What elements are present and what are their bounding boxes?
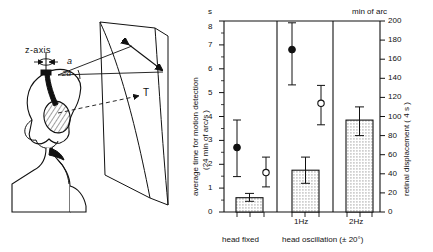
ytick-5: 5 (208, 89, 212, 97)
group-label-head-oscillation: head oscillation (± 20°) (282, 236, 363, 244)
ytick-1: 1 (208, 184, 212, 192)
ytick-0: 0 (208, 208, 212, 216)
y2tick-200: 200 (388, 17, 401, 25)
y2tick-160: 160 (388, 55, 401, 63)
y-axis-ticks (219, 21, 224, 212)
ytick-7: 7 (208, 41, 212, 49)
y-axis-title: average time for motion detection (192, 77, 200, 196)
screen-outline (100, 22, 168, 205)
y2-axis-ticks (380, 21, 385, 212)
head-and-screen-diagram: z-axis a 2α T (0, 0, 200, 252)
y2tick-100: 100 (388, 113, 401, 121)
y2tick-20: 20 (388, 189, 397, 197)
point-filled-1hz (289, 46, 296, 53)
z-axis-label: z-axis (25, 46, 51, 55)
y2tick-60: 60 (388, 151, 397, 159)
y2-axis-top-unit: min of arc (352, 8, 387, 16)
group-label-head-fixed: head fixed (222, 236, 259, 244)
diagram-svg (0, 0, 200, 252)
ytick-3: 3 (208, 136, 212, 144)
point-filled-head-fixed (234, 144, 241, 151)
bar-and-point-chart: s min of arc average time for motion det… (200, 0, 433, 252)
ytick-4: 4 (208, 113, 212, 121)
y2tick-120: 120 (388, 93, 401, 101)
y2tick-40: 40 (388, 170, 397, 178)
xtick-1hz: 1Hz (294, 218, 308, 226)
figure-root: z-axis a 2α T s min of arc average time … (0, 0, 433, 252)
y2tick-180: 180 (388, 36, 401, 44)
y2tick-80: 80 (388, 132, 397, 140)
ytick-6: 6 (208, 65, 212, 73)
errorbar-filled-1hz (288, 23, 296, 85)
ytick-8: 8 (208, 23, 212, 31)
amplitude-label: a (67, 57, 72, 66)
shoulder-right (70, 186, 86, 212)
y2tick-0: 0 (388, 208, 392, 216)
point-open-1hz (318, 100, 324, 106)
y2-axis-title: retinal displacement ( 4 s ) (403, 102, 411, 196)
y-axis-top-unit: s (208, 8, 212, 16)
point-open-head-fixed (263, 169, 269, 175)
angle-label: 2α (62, 70, 71, 78)
y2tick-140: 140 (388, 74, 401, 82)
target-label: T (143, 88, 149, 98)
xtick-2hz: 2Hz (349, 218, 363, 226)
ytick-2: 2 (208, 160, 212, 168)
